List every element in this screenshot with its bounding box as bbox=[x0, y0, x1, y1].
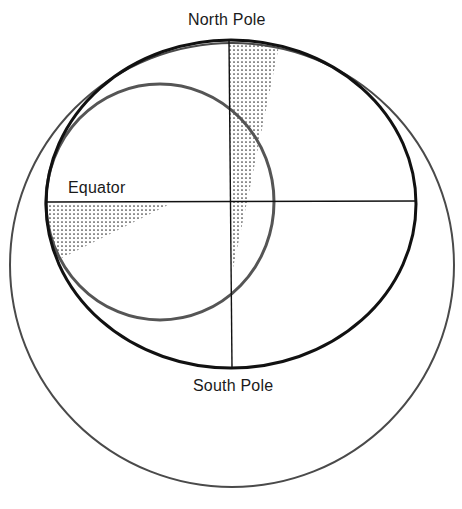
equator-shaded-wedge bbox=[47, 203, 172, 258]
equator-label: Equator bbox=[68, 179, 125, 197]
north-pole-label: North Pole bbox=[188, 11, 266, 29]
south-pole-label: South Pole bbox=[193, 377, 273, 395]
pole-equator-diagram bbox=[0, 0, 462, 509]
south-shaded-wedge bbox=[231, 202, 247, 268]
